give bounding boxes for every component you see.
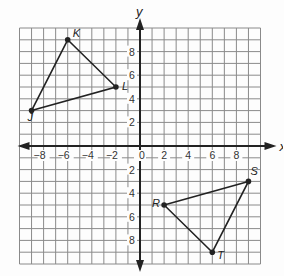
y-axis-down-arrow-icon <box>136 260 144 272</box>
y-tick-label: 4 <box>129 187 135 199</box>
vertex-label-j: J <box>27 111 34 123</box>
x-tick-label: 4 <box>185 149 191 161</box>
vertex-point-t <box>210 249 216 255</box>
x-tick-label: −6 <box>58 149 70 161</box>
y-tick-label: 2 <box>129 164 135 176</box>
vertex-point-s <box>246 179 252 185</box>
x-axis-right-arrow-icon <box>265 142 277 150</box>
x-tick-label: −4 <box>82 149 94 161</box>
y-axis-label: y <box>135 4 144 19</box>
vertex-point-k <box>65 37 71 43</box>
y-axis-up-arrow-icon <box>136 18 144 30</box>
x-tick-label: 2 <box>161 149 167 161</box>
vertex-point-l <box>113 84 119 90</box>
x-tick-label: 8 <box>233 149 239 161</box>
axes <box>18 18 277 272</box>
vertex-label-s: S <box>250 165 258 177</box>
x-tick-label: 6 <box>209 149 215 161</box>
y-tick-label: 2 <box>129 116 135 128</box>
y-tick-label: 8 <box>129 234 135 246</box>
x-tick-label: 0 <box>139 149 145 161</box>
x-tick-label: −2 <box>106 149 118 161</box>
vertex-label-l: L <box>122 80 128 92</box>
x-axis-label: x <box>279 139 284 154</box>
vertex-label-r: R <box>152 197 160 209</box>
coordinate-plane: xy−8−6−4−20246886422468 JKLRST <box>0 0 283 276</box>
y-tick-label: 6 <box>129 211 135 223</box>
vertex-point-r <box>161 202 167 208</box>
y-tick-label: 8 <box>129 46 135 58</box>
vertex-label-k: K <box>73 27 81 39</box>
y-tick-label: 6 <box>129 69 135 81</box>
x-tick-label: −8 <box>34 149 46 161</box>
triangles: JKLRST <box>27 27 259 261</box>
tick-labels: xy−8−6−4−20246886422468 <box>34 4 283 246</box>
y-tick-label: 4 <box>129 93 135 105</box>
